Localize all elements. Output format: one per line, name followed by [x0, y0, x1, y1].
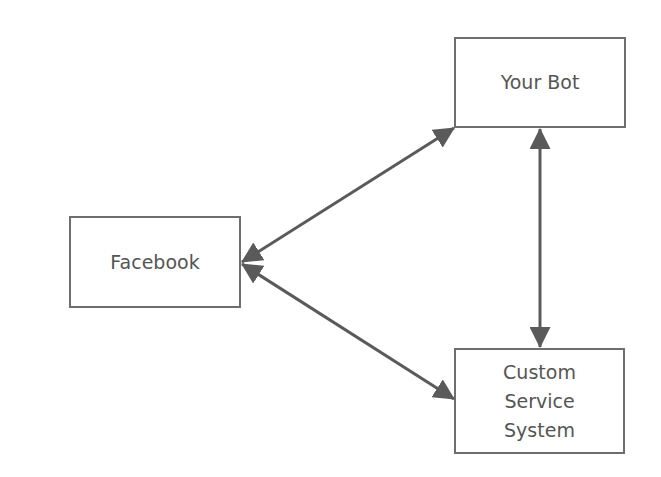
edge-facebook-customservice: [242, 264, 454, 399]
node-facebook: Facebook: [69, 216, 241, 308]
node-your-bot: Your Bot: [454, 37, 626, 128]
node-label-line: Service: [504, 387, 574, 416]
node-label: Your Bot: [501, 68, 580, 97]
node-custom-service-system: Custom Service System: [454, 348, 625, 454]
edge-facebook-yourbot: [242, 128, 454, 262]
node-label-line: System: [504, 416, 575, 445]
node-label: Facebook: [110, 248, 199, 277]
node-label-line: Custom: [503, 358, 576, 387]
